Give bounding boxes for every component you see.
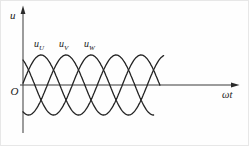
x-axis-label: ωt xyxy=(222,89,233,100)
curve-label-uV: uV xyxy=(59,38,69,52)
curve-label-uW-sub: W xyxy=(89,44,96,52)
y-axis-label: u xyxy=(10,9,16,21)
curve-label-uU: uU xyxy=(34,38,45,52)
origin-label: O xyxy=(11,85,19,97)
curve-label-uW: uW xyxy=(84,38,96,52)
three-phase-waveform-chart: u O ωt uU uV uW xyxy=(1,1,249,146)
curve-label-uV-sub: V xyxy=(64,44,69,52)
x-axis-arrowhead-icon xyxy=(231,83,240,88)
curve-label-uU-sub: U xyxy=(39,44,45,52)
y-axis-arrowhead-icon xyxy=(21,6,26,15)
figure-canvas: u O ωt uU uV uW xyxy=(0,0,249,146)
